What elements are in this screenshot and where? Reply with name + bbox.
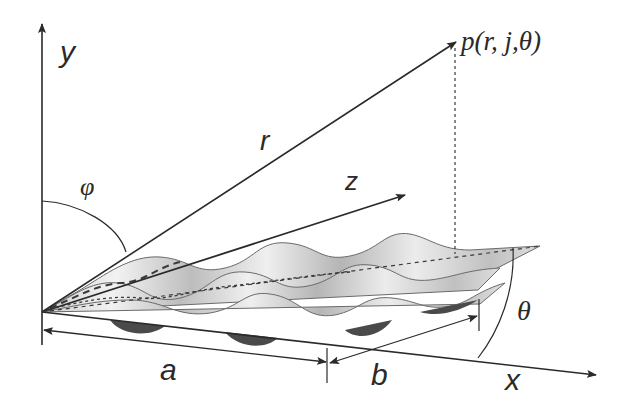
label-z-axis: z bbox=[344, 166, 358, 196]
label-a: a bbox=[160, 353, 177, 386]
label-r: r bbox=[260, 125, 271, 156]
label-point: p(r, j,θ) bbox=[459, 26, 541, 56]
label-y-axis: y bbox=[58, 35, 77, 68]
sinusoidal-surface bbox=[42, 233, 540, 345]
label-theta: θ bbox=[517, 295, 531, 326]
surface-shadow-3 bbox=[345, 320, 392, 336]
label-b: b bbox=[371, 358, 388, 391]
surface-shadow-1 bbox=[110, 320, 165, 333]
diagram-canvas: y r z φ θ p(r, j,θ) a b x bbox=[0, 0, 622, 416]
surface-shadow-4 bbox=[420, 300, 478, 314]
label-x-axis: x bbox=[503, 363, 521, 396]
dimension-b-arrow bbox=[330, 316, 477, 363]
phi-arc bbox=[42, 201, 126, 252]
dimension-a-arrow bbox=[44, 330, 326, 362]
label-phi: φ bbox=[80, 172, 94, 201]
